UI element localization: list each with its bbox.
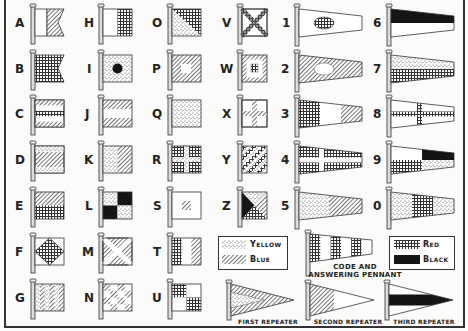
label-w: W [220,63,233,75]
label-3: 3 [281,108,289,120]
label-l: L [85,200,93,212]
flag-a [30,4,64,44]
second-repeater-label: SECOND REPEATER [308,318,388,325]
label-a: A [15,17,24,29]
label-f: F [15,246,23,258]
flag-c [30,95,64,135]
label-i: I [87,63,91,75]
third-repeater-label: THIRD REPEATER [384,318,464,325]
label-r: R [152,154,161,166]
pennant-1 [294,4,362,46]
pennant-6 [386,4,454,46]
pennant-9 [386,141,454,183]
flag-n [98,279,132,319]
flag-b [30,50,64,90]
label-9: 9 [373,154,381,166]
label-2: 2 [281,63,289,75]
code-pennant-caption-line2: ANSWERING PENNANT [305,271,405,279]
label-v: V [222,17,231,29]
flags-illustration [0,0,468,331]
code-pennant-caption-line1: CODE AND [310,263,400,271]
label-p: P [152,63,161,75]
pennant-2 [294,50,362,92]
flag-i [98,50,132,90]
pennant-0 [386,187,454,229]
flag-w [237,50,267,90]
label-0: 0 [373,200,381,212]
label-u: U [152,292,162,304]
flag-e [30,187,64,227]
pennant-8 [386,95,454,137]
label-e: E [15,200,23,212]
flag-d [30,141,64,181]
label-n: N [84,292,94,304]
flag-o [167,4,201,44]
flag-p [167,50,201,90]
label-t: T [153,246,161,258]
label-6: 6 [373,17,381,29]
label-h: H [84,17,94,29]
label-q: Q [152,108,162,120]
label-7: 7 [373,63,381,75]
legend-black-label: Black [423,255,449,264]
flag-q [167,95,201,135]
label-o: O [152,17,162,29]
flag-t [167,233,201,273]
flag-m [98,233,132,273]
legend-yellow-label: Yellow [250,240,281,249]
pennant-4 [294,141,362,183]
pennant-7 [386,50,454,92]
first-repeater-label: FIRST REPEATER [228,318,308,325]
flag-x [237,95,267,135]
label-s: S [153,200,162,212]
label-m: M [82,246,94,258]
label-x: X [222,108,231,120]
flag-l [98,187,132,227]
flag-j [98,95,132,135]
flag-k [98,141,132,181]
flag-y [236,141,272,181]
flag-v [237,4,267,44]
third-repeater [384,280,453,320]
flag-z [237,187,267,227]
flag-s [167,187,201,227]
flag-u [167,279,201,319]
label-y: Y [222,154,231,166]
label-g: G [15,292,25,304]
pennant-5 [294,187,362,229]
pennant-3 [294,95,362,137]
second-repeater [305,280,374,320]
label-1: 1 [282,17,290,29]
flag-r [167,141,201,181]
flag-h [98,4,132,44]
label-j: J [85,108,89,120]
legend-red-label: Red [423,240,439,249]
label-b: B [15,63,24,75]
flag-g [30,279,64,319]
label-d: D [15,154,25,166]
legend-blue-label: Blue [250,255,270,264]
label-5: 5 [281,200,289,212]
label-c: C [15,108,24,120]
label-8: 8 [373,108,381,120]
label-k: K [84,154,93,166]
label-4: 4 [281,154,289,166]
flag-f [30,233,64,273]
first-repeater [226,280,294,320]
label-z: Z [222,200,231,212]
